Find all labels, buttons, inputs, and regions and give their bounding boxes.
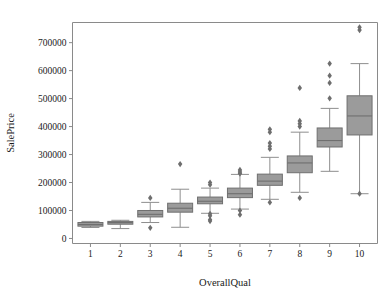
x-tick-label: 4 xyxy=(178,249,183,259)
y-tick-label: 700000 xyxy=(38,38,67,48)
boxplot-figure: 0100000200000300000400000500000600000700… xyxy=(0,0,391,294)
y-tick-label: 400000 xyxy=(38,122,67,132)
x-tick-label: 7 xyxy=(267,249,272,259)
plot-canvas: 0100000200000300000400000500000600000700… xyxy=(0,0,391,294)
y-tick-label: 300000 xyxy=(38,150,67,160)
y-axis-title: SalePrice xyxy=(5,113,16,153)
y-tick-label: 100000 xyxy=(38,206,67,216)
x-tick-label: 2 xyxy=(118,249,123,259)
y-tick-label: 0 xyxy=(62,234,67,244)
x-tick-label: 3 xyxy=(148,249,153,259)
x-axis-title: OverallQual xyxy=(199,277,251,288)
y-tick-label: 200000 xyxy=(38,178,67,188)
box-1 xyxy=(78,221,103,227)
y-tick-label: 500000 xyxy=(38,94,67,104)
x-tick-label: 5 xyxy=(208,249,213,259)
x-tick-label: 9 xyxy=(327,249,332,259)
x-tick-label: 6 xyxy=(238,249,243,259)
x-tick-label: 1 xyxy=(88,249,93,259)
x-tick-label: 10 xyxy=(355,249,365,259)
y-tick-label: 600000 xyxy=(38,66,67,76)
x-tick-label: 8 xyxy=(297,249,302,259)
